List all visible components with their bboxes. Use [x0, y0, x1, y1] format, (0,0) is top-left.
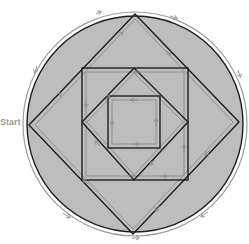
- outer-circle: [27, 16, 243, 232]
- nested-shapes-diagram: [0, 0, 249, 244]
- start-label: Start: [0, 117, 21, 127]
